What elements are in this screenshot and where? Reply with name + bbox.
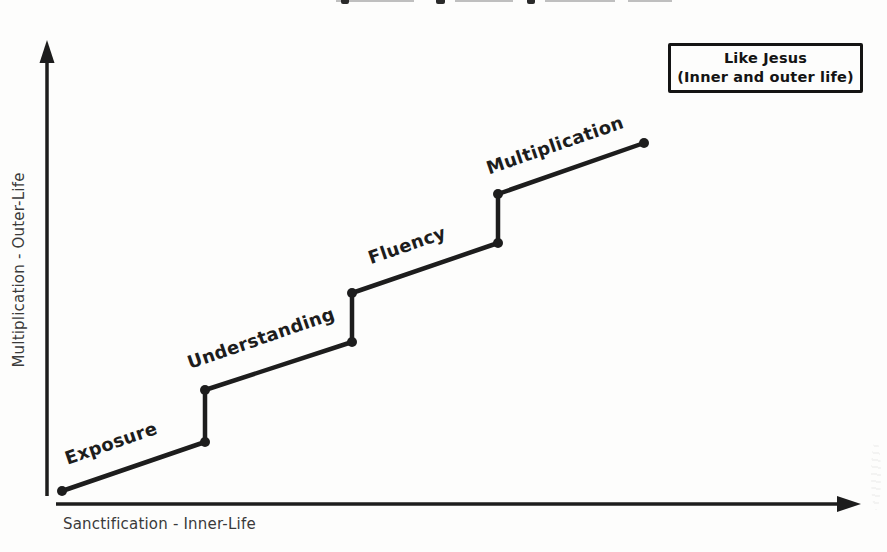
y-axis-label: Multiplication - Outer-Life [10, 172, 28, 367]
y-axis-arrow-icon [40, 40, 55, 63]
stage-label-understanding: Understanding [184, 303, 337, 373]
staircase-group: ExposureUnderstandingFluencyMultiplicati… [57, 112, 649, 496]
stage-label-fluency: Fluency [365, 222, 448, 268]
x-axis-arrow-icon [837, 496, 861, 512]
data-point [200, 385, 210, 395]
data-point [493, 189, 503, 199]
data-point [347, 337, 357, 347]
data-point [493, 238, 503, 248]
data-point [639, 138, 649, 148]
goal-annotation-line1: Like Jesus [724, 49, 807, 68]
stage-label-multiplication: Multiplication [483, 112, 626, 179]
data-point [347, 288, 357, 298]
scan-artifact [871, 440, 881, 510]
goal-annotation-line2: (Inner and outer life) [677, 68, 854, 87]
x-axis-label: Sanctification - Inner-Life [63, 515, 256, 533]
data-point [57, 486, 67, 496]
goal-annotation-box: Like Jesus (Inner and outer life) [668, 43, 863, 93]
diagram-page: Sanctification - Inner-Life Multiplicati… [0, 0, 887, 552]
data-point [200, 437, 210, 447]
